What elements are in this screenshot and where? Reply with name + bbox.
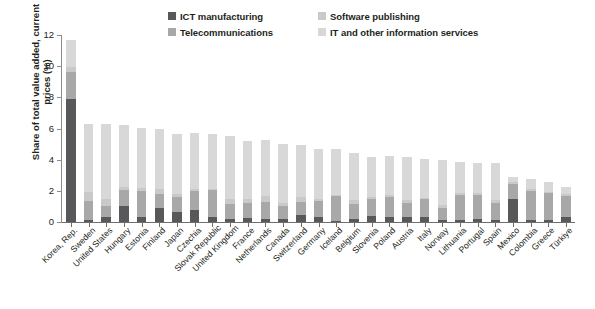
bar-segment [243, 218, 253, 222]
bar-segment [314, 201, 324, 217]
bar-segment [331, 149, 341, 195]
bar-segment [349, 204, 359, 219]
y-axis-tick-label: 0 [32, 217, 54, 227]
bar-segment [455, 195, 465, 220]
y-axis-title: Share of total value added, current pric… [30, 0, 53, 167]
bar-segment [438, 220, 448, 222]
bar-korea-rep [66, 40, 76, 222]
bar-segment [420, 199, 430, 217]
bar-united-states [101, 124, 111, 222]
bar-segment [420, 198, 430, 200]
bar-segment [455, 193, 465, 195]
bar-segment [278, 219, 288, 222]
bar-segment [84, 220, 94, 222]
bar-segment [101, 217, 111, 222]
y-axis-title-wrapper: Share of total value added, current pric… [21, 0, 61, 167]
bar-segment [243, 203, 253, 219]
bar-estonia [137, 128, 147, 222]
y-axis-tick-label: 2 [32, 186, 54, 196]
bar-segment [402, 200, 412, 203]
bar-segment [491, 200, 501, 202]
bar-segment [190, 189, 200, 191]
bar-segment [172, 194, 182, 197]
bar-belgium [349, 153, 359, 222]
bar-greece [544, 181, 554, 222]
bar-segment [261, 202, 271, 219]
bar-segment [101, 206, 111, 218]
y-axis-tick-label: 12 [32, 30, 54, 40]
bar-poland [385, 156, 395, 222]
bar-segment [243, 199, 253, 202]
bar-colombia [526, 179, 536, 222]
bar-segment [349, 219, 359, 222]
legend-row-top: ICT manufacturingSoftware publishing [168, 8, 588, 23]
bar-segment [278, 203, 288, 206]
bar-hungary [119, 125, 129, 222]
bar-segment [508, 184, 518, 200]
bar-segment [84, 201, 94, 220]
y-axis-tick [57, 160, 62, 161]
bar-segment [261, 140, 271, 195]
bar-united-kingdom [225, 136, 235, 222]
bar-segment [261, 196, 271, 202]
bar-segment [385, 156, 395, 195]
bar-canada [278, 144, 288, 222]
bar-segment [385, 197, 395, 217]
bar-segment [261, 219, 271, 222]
bar-austria [402, 157, 412, 222]
bar-segment [190, 191, 200, 210]
y-axis-tick [57, 66, 62, 67]
bar-switzerland [296, 145, 306, 222]
bar-segment [314, 199, 324, 201]
y-axis-tick [57, 97, 62, 98]
legend-item: Software publishing [318, 8, 420, 23]
bar-sweden [84, 124, 94, 222]
y-axis-tick [57, 222, 62, 223]
bar-segment [155, 129, 165, 189]
bar-segment [331, 196, 341, 221]
bar-segment [225, 136, 235, 198]
y-axis-tick-label: 10 [32, 61, 54, 71]
bar-segment [473, 193, 483, 195]
bar-segment [314, 217, 324, 222]
bar-segment [508, 177, 518, 182]
bar-segment [526, 220, 536, 222]
bar-segment [155, 208, 165, 222]
bar-segment [208, 189, 218, 191]
bar-segment [561, 187, 571, 194]
bar-segment [84, 124, 94, 193]
bar-iceland [331, 149, 341, 222]
bar-segment [367, 157, 377, 198]
bar-japan [172, 134, 182, 222]
bar-segment [473, 163, 483, 193]
bar-segment [190, 210, 200, 222]
bar-segment [561, 217, 571, 222]
bar-segment [544, 193, 554, 220]
bar-slovenia [367, 157, 377, 222]
bar-segment [438, 208, 448, 220]
bar-segment [491, 220, 501, 222]
y-axis-tick [57, 191, 62, 192]
bar-segment [526, 191, 536, 221]
bar-segment [119, 125, 129, 187]
bar-segment [119, 190, 129, 206]
ict-value-added-chart: ICT manufacturingSoftware publishing Tel… [0, 0, 595, 309]
bar-segment [137, 217, 147, 222]
bar-segment [208, 190, 218, 216]
bar-segment [278, 144, 288, 202]
bar-segment [296, 197, 306, 202]
legend-item-label: Software publishing [330, 9, 420, 24]
bar-segment [420, 217, 430, 222]
plot-area: 024681012 [62, 35, 575, 222]
bar-segment [367, 216, 377, 222]
bar-segment [367, 197, 377, 199]
y-axis-tick [57, 35, 62, 36]
bar-segment [526, 189, 536, 191]
bar-segment [544, 182, 554, 192]
bar-segment [420, 159, 430, 198]
bar-segment [101, 199, 111, 206]
bar-segment [225, 204, 235, 219]
bar-segment [526, 179, 536, 189]
bar-segment [455, 162, 465, 193]
bar-segment [66, 99, 76, 222]
